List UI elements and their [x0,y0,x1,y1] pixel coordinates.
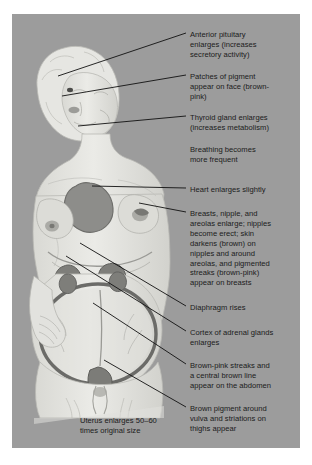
leader-line-abdomen-streaks [93,303,186,364]
leader-line-heart [92,186,186,188]
label-breasts: Breasts, nipple, and areolas enlarge; ni… [190,209,294,288]
illustration-page: Anterior pituitary enlarges (increases s… [0,0,312,465]
label-adrenal-cortex: Cortex of adrenal glands enlarges [190,328,294,348]
leader-line-breasts [139,203,186,212]
label-breathing: Breathing becomes more frequent [190,145,294,165]
label-abdomen-streaks: Brown-pink streaks and a central brown l… [190,361,294,391]
caption-uterus-caption: Uterus enlarges 50–60 times original siz… [80,416,200,436]
label-face-pigment: Patches of pigment appear on face (brown… [190,72,294,102]
leader-line-face-pigment [62,75,186,96]
label-thyroid-gland: Thyroid gland enlarges (increases metabo… [190,113,294,133]
label-diaphragm: Diaphragm rises [190,303,294,313]
leader-line-thyroid-gland [78,116,186,126]
leader-line-adrenal-cortex [66,256,186,331]
label-vulva-thighs: Brown pigment around vulva and striation… [190,404,294,434]
diagram-panel: Anterior pituitary enlarges (increases s… [12,14,300,448]
label-heart: Heart enlarges slightly [190,185,294,195]
label-anterior-pituitary: Anterior pituitary enlarges (increases s… [190,30,294,60]
leader-line-vulva-thighs [104,360,186,407]
leader-line-anterior-pituitary [58,33,186,76]
